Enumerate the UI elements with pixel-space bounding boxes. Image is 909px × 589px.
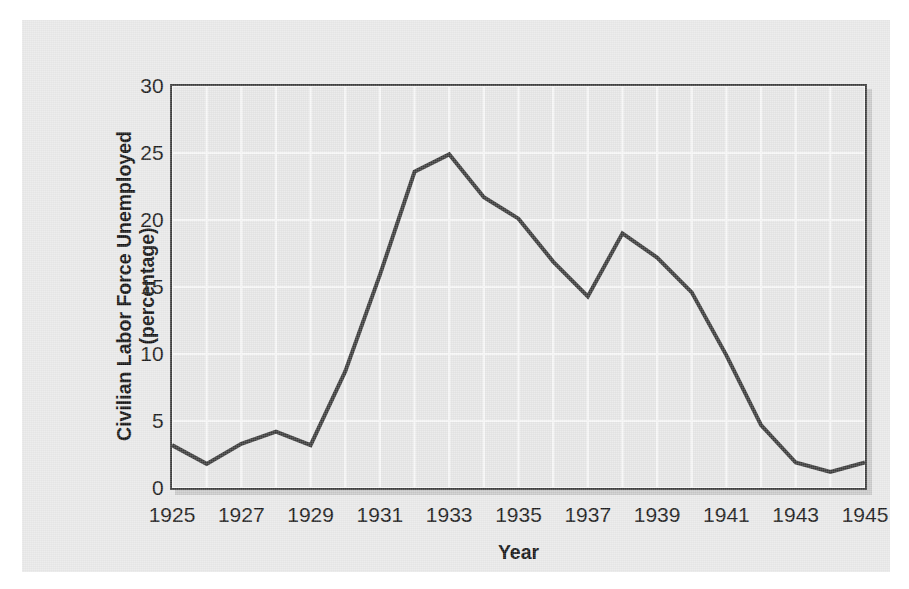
y-tick-label-10: 10 <box>118 343 164 364</box>
x-axis-ticks: 1925192719291931193319351937193919411943… <box>170 504 867 534</box>
x-tick-label-1943: 1943 <box>772 504 819 525</box>
plot-inner <box>172 86 865 488</box>
y-tick-label-5: 5 <box>118 410 164 431</box>
y-tick-label-15: 15 <box>118 276 164 297</box>
plot-area <box>170 84 867 490</box>
chart-screenshot: Civilian Labor Force Unemployed (percent… <box>0 0 909 589</box>
x-tick-label-1931: 1931 <box>357 504 404 525</box>
data-line-series <box>172 86 865 488</box>
x-tick-label-1945: 1945 <box>842 504 889 525</box>
figure-panel: Civilian Labor Force Unemployed (percent… <box>22 20 890 572</box>
y-axis-ticks: 051015202530 <box>110 84 164 490</box>
x-axis-title: Year <box>170 541 867 564</box>
x-tick-label-1937: 1937 <box>564 504 611 525</box>
x-tick-label-1935: 1935 <box>495 504 542 525</box>
x-tick-label-1929: 1929 <box>287 504 334 525</box>
x-tick-label-1927: 1927 <box>218 504 265 525</box>
y-tick-label-20: 20 <box>118 209 164 230</box>
x-tick-label-1941: 1941 <box>703 504 750 525</box>
x-tick-label-1925: 1925 <box>149 504 196 525</box>
y-tick-label-30: 30 <box>118 75 164 96</box>
x-tick-label-1939: 1939 <box>634 504 681 525</box>
y-tick-label-0: 0 <box>118 477 164 498</box>
x-tick-label-1933: 1933 <box>426 504 473 525</box>
y-tick-label-25: 25 <box>118 142 164 163</box>
